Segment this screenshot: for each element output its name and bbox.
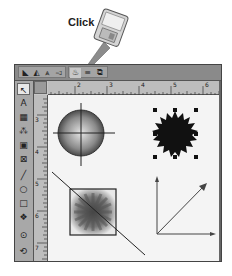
- picture-tool[interactable]: ▣: [17, 139, 30, 151]
- pointer-tool[interactable]: ↖: [17, 83, 30, 95]
- table-tool[interactable]: ▦: [17, 111, 30, 123]
- floppy-disk-pointer-icon: [93, 8, 128, 47]
- vector-axes[interactable]: [155, 176, 216, 236]
- ruler-label: 6: [35, 212, 39, 219]
- tool-palette: ↖ A ▦ ⁂ ▣ ⊠ ╱ ○ □ ❖ ⊙ ⟲: [15, 81, 34, 261]
- ruler-label: 5: [35, 180, 39, 187]
- text-path-skew-button[interactable]: ◅: [53, 68, 64, 78]
- canvas-drawing: [48, 95, 219, 261]
- ruler-label: 6: [205, 81, 209, 88]
- link-tool[interactable]: ⁂: [17, 125, 30, 137]
- line-tool[interactable]: ╱: [17, 169, 30, 181]
- ruler-label: 4: [35, 148, 39, 155]
- ruler-label: 2: [77, 81, 81, 88]
- ruler-label: 3: [109, 81, 113, 88]
- layer-button[interactable]: ⧉: [94, 68, 105, 78]
- text-path-peak-button[interactable]: ⩓: [42, 68, 53, 78]
- text-path-arc-button[interactable]: ◭: [31, 68, 42, 78]
- ruler-label: 7: [35, 244, 39, 251]
- document-canvas[interactable]: [48, 95, 219, 261]
- canvas-right-border: [219, 81, 221, 261]
- application-window: ◣ ◭ ⩓ ◅ ♨ ≡ ⧉ ↖ A ▦ ⁂ ▣ ⊠ ╱ ○ □ ❖ ⊙ ⟲: [14, 64, 222, 262]
- measurements-toolbar: ◣ ◭ ⩓ ◅ ♨ ≡ ⧉: [15, 65, 221, 81]
- selected-starburst[interactable]: [152, 108, 198, 159]
- shape-tool[interactable]: ❖: [17, 211, 30, 223]
- crosshair-gradient-circle[interactable]: [53, 103, 115, 166]
- picture-box-tool[interactable]: ⊠: [17, 153, 30, 165]
- text-path-left-button[interactable]: ◣: [20, 68, 31, 78]
- ruler-origin[interactable]: [34, 81, 47, 94]
- ruler-label: 4: [141, 81, 145, 88]
- color-tool-button[interactable]: ♨: [70, 68, 81, 78]
- oval-tool[interactable]: ○: [17, 183, 30, 195]
- rectangle-tool[interactable]: □: [17, 197, 30, 209]
- square-starburst-gradient[interactable]: [52, 172, 145, 255]
- ruler-label: 3: [35, 116, 39, 123]
- ruler-label: 5: [173, 81, 177, 88]
- rotate-tool[interactable]: ⟲: [17, 245, 30, 257]
- text-tool[interactable]: A: [17, 97, 30, 109]
- align-button[interactable]: ≡: [82, 68, 93, 78]
- zoom-tool[interactable]: ⊙: [17, 229, 30, 241]
- vertical-ruler[interactable]: 3 4 5 6 7: [34, 95, 48, 261]
- text-path-tool-group: ◣ ◭ ⩓ ◅: [18, 66, 66, 78]
- item-tool-group: ♨ ≡ ⧉: [68, 66, 108, 78]
- horizontal-ruler[interactable]: 2 3 4 5 6: [48, 81, 221, 95]
